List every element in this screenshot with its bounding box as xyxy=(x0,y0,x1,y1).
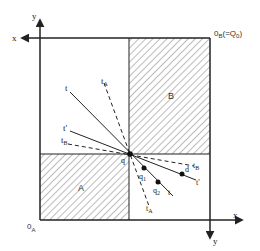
t-b-lower-sub: B xyxy=(195,165,199,171)
origin-b-suffix: (=Q xyxy=(222,29,236,38)
q2-sub: 2 xyxy=(157,190,160,196)
region-b-label: B xyxy=(168,91,174,101)
region-a-label: A xyxy=(78,183,84,193)
line-t-a-label-lower: tA xyxy=(146,204,153,214)
t-a-lower-sub: A xyxy=(148,208,153,214)
region-a-hatch xyxy=(40,154,129,220)
origin-b-suffix-end: ) xyxy=(239,29,242,38)
origin-b-label: 0B(=Q0) xyxy=(214,29,242,39)
point-d-label: d xyxy=(185,165,189,174)
axis-b-y-label: y xyxy=(213,236,218,246)
axis-b-x-label: x xyxy=(12,33,17,43)
line-t-label-upper: t xyxy=(65,83,68,93)
t-b-upper-sub: B xyxy=(64,140,68,146)
origin-a-label: 0A xyxy=(27,222,35,233)
line-t-prime-label-lower: t' xyxy=(196,178,200,187)
point-q2-label: q2 xyxy=(153,186,160,196)
point-q xyxy=(127,151,133,157)
line-t-b-label-lower: tB xyxy=(193,161,199,171)
point-q1-label: q1 xyxy=(139,172,146,182)
point-d xyxy=(180,172,185,177)
t-a-upper-sub: A xyxy=(104,81,109,87)
q1-sub: 1 xyxy=(143,176,146,182)
axis-a-y-label: y xyxy=(32,11,37,21)
point-q1 xyxy=(142,166,147,171)
line-t-label-lower: t xyxy=(168,188,171,197)
axis-a-x-label: x xyxy=(233,210,238,220)
line-t-b-label-upper: tB xyxy=(61,135,68,146)
origin-a-sub: A xyxy=(31,227,35,233)
point-q2 xyxy=(156,180,161,185)
line-t-prime-label-upper: t' xyxy=(63,123,68,133)
edgeworth-box-diagram: y x x y 0B(=Q0) 0A B A t t t' t' tA tA t… xyxy=(0,0,260,251)
point-q-label: q xyxy=(121,156,125,165)
line-t-a-label-upper: tA xyxy=(101,76,109,87)
